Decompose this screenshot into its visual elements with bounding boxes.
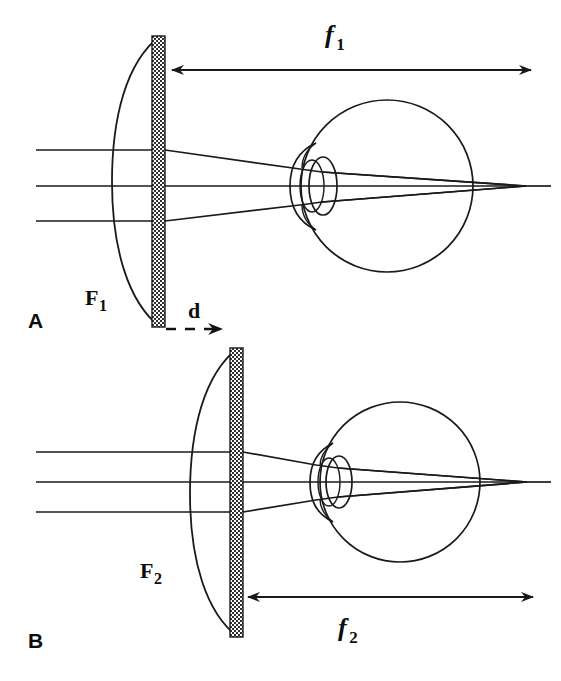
refracted-ray-upper-inner-b: [338, 468, 527, 482]
diagram-canvas: [0, 0, 561, 681]
hatched-lens-bar-a: [152, 36, 165, 327]
focal-length-subscript-a: 1: [336, 35, 345, 54]
lens-label-b: F2: [140, 560, 162, 587]
focal-length-symbol-a: f: [325, 20, 334, 49]
refracted-rays-b: [243, 452, 527, 512]
lens-subscript-b: 2: [154, 570, 162, 587]
panel-letter-b: B: [28, 630, 43, 651]
shift-distance-label: d: [188, 300, 200, 322]
lens-subscript-a: 1: [99, 297, 107, 314]
optics-diagram-figure: f1 F1 A d F2 B f2: [0, 0, 561, 681]
panel-letter-a: A: [28, 310, 43, 331]
panel-b-optics: [36, 348, 551, 637]
lens-symbol-b: F: [140, 558, 153, 583]
lens-label-a: F1: [85, 287, 107, 314]
incident-parallel-rays-a: [36, 150, 161, 221]
lens-symbol-a: F: [85, 285, 98, 310]
focal-length-subscript-b: 2: [349, 628, 358, 647]
focal-length-label-a: f1: [325, 22, 345, 53]
refracted-ray-upper-inner-a: [322, 172, 526, 186]
focal-length-symbol-b: f: [338, 613, 347, 642]
refracted-ray-lower-inner-b: [338, 482, 527, 497]
hatched-lens-bar-b: [230, 348, 243, 637]
focal-length-label-b: f2: [338, 615, 358, 646]
panel-a-optics: [36, 36, 551, 327]
incident-parallel-rays-b: [36, 452, 239, 512]
refracted-ray-upper-b: [243, 452, 527, 482]
refracted-ray-lower-b: [243, 482, 527, 512]
refracted-ray-lower-inner-a: [322, 186, 526, 202]
refracted-rays-a: [165, 150, 526, 221]
